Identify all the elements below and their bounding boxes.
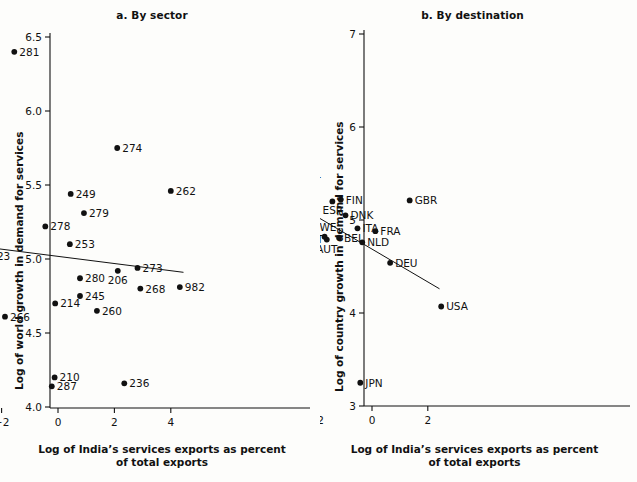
data-point — [387, 260, 393, 266]
data-point-label: 281 — [19, 46, 39, 58]
data-point-label: 253 — [75, 238, 95, 250]
x-tick-label: 2 — [424, 414, 431, 426]
chart-panel-by-destination: b. By destination Log of country growth … — [320, 0, 637, 482]
data-point-label: AUT — [320, 243, 338, 255]
x-tick-label: −2 — [0, 416, 9, 428]
y-tick-label: 6 — [349, 121, 356, 133]
data-point — [42, 224, 48, 230]
data-point-label: 982 — [185, 281, 205, 293]
data-point-label: 266 — [10, 311, 30, 323]
data-point — [137, 286, 143, 292]
data-point — [121, 380, 127, 386]
data-point — [94, 308, 100, 314]
data-point — [338, 197, 344, 203]
data-point-label: 214 — [60, 297, 80, 309]
y-tick-label: 4.0 — [25, 401, 42, 413]
data-point — [135, 265, 141, 271]
data-point — [52, 301, 58, 307]
y-tick-label: 3 — [349, 400, 356, 412]
data-point — [343, 212, 349, 218]
data-point — [114, 145, 120, 151]
panel-a-x-axis-label-line2: of total exports — [116, 456, 208, 468]
chart-panel-by-sector: a. By sector Log of world growth in dema… — [0, 0, 320, 482]
x-tick-label: 4 — [167, 416, 174, 428]
y-tick-label: 6.0 — [25, 105, 42, 117]
data-point — [168, 188, 174, 194]
panel-b-x-axis-label: Log of India’s services exports as perce… — [316, 443, 633, 469]
data-point-label: 273 — [143, 262, 163, 274]
data-point-label: 280 — [85, 272, 105, 284]
panel-a-plot-area: 4.04.55.05.56.06.5−4−2024281274262249279… — [0, 0, 320, 482]
data-point-label: 249 — [76, 188, 96, 200]
data-point-label: DEU — [395, 257, 417, 269]
data-point-label: ESP — [323, 204, 343, 216]
y-tick-label: 4.5 — [25, 327, 42, 339]
data-point-label: USA — [446, 300, 469, 312]
data-point — [355, 225, 361, 231]
y-tick-label: 6.5 — [25, 31, 42, 43]
x-tick-label: 0 — [369, 414, 376, 426]
data-point-label: FIN — [346, 194, 363, 206]
y-tick-label: 4 — [349, 307, 356, 319]
x-tick-label: 2 — [111, 416, 118, 428]
data-point — [11, 49, 17, 55]
data-point — [49, 383, 55, 389]
data-point — [2, 314, 8, 320]
data-point — [177, 284, 183, 290]
y-tick-label: 7 — [349, 28, 356, 40]
data-point — [77, 275, 83, 281]
data-point — [372, 228, 378, 234]
data-point-label: 278 — [50, 220, 70, 232]
data-point-label: 268 — [145, 283, 165, 295]
data-point — [68, 191, 74, 197]
data-point — [407, 198, 413, 204]
data-point-label: 236 — [129, 377, 149, 389]
panel-a-x-axis-label: Log of India’s services exports as perce… — [2, 443, 322, 469]
data-point — [357, 380, 363, 386]
data-point-label: 287 — [57, 380, 77, 392]
x-tick-label: −2 — [320, 414, 324, 426]
panel-a-x-axis-label-line1: Log of India’s services exports as perce… — [38, 443, 286, 455]
data-point-label: 260 — [102, 305, 122, 317]
x-tick-label: 0 — [55, 416, 62, 428]
data-point-label: 223 — [0, 250, 10, 262]
data-point-label: NLD — [367, 236, 389, 248]
data-point — [359, 239, 365, 245]
panel-b-x-axis-label-line1: Log of India’s services exports as perce… — [351, 443, 599, 455]
data-point-label: JPN — [364, 377, 382, 389]
data-point-label: 245 — [85, 290, 105, 302]
data-point — [67, 241, 73, 247]
y-tick-label: 5.5 — [25, 179, 42, 191]
data-point-label: 262 — [176, 185, 196, 197]
panel-b-plot-area: 34567−6−4−202LTUCYPROMSVKLVABGRSVNESTMLT… — [320, 0, 637, 482]
data-point-label: SWE — [320, 221, 336, 233]
data-point-label: DNK — [350, 209, 374, 221]
data-point-label: 274 — [122, 142, 142, 154]
data-point-label: 279 — [89, 207, 109, 219]
data-point — [336, 235, 342, 241]
data-point-label: GBR — [415, 194, 438, 206]
data-point — [81, 210, 87, 216]
panel-b-x-axis-label-line2: of total exports — [428, 456, 520, 468]
data-point — [438, 304, 444, 310]
y-tick-label: 5.0 — [25, 253, 42, 265]
data-point-label: 206 — [108, 274, 128, 286]
data-point-label: IRL — [320, 168, 321, 180]
